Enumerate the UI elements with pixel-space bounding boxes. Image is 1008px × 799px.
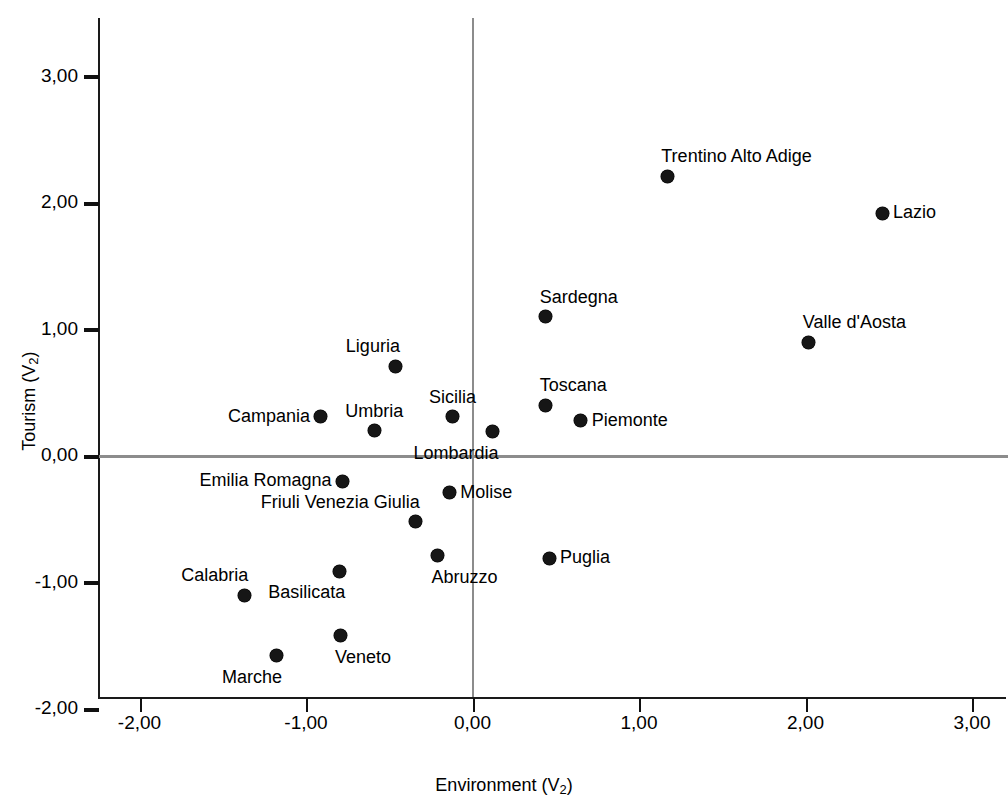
plot-area: 3,002,001,000,00-1,00-2,00 -2,00-1,000,0… [0,0,1008,799]
data-point-label: Abruzzo [432,567,498,588]
y-tick-label: -2,00 [0,697,78,719]
data-point[interactable] [238,589,251,602]
data-point-label: Umbria [345,401,403,422]
x-tick-label: -2,00 [95,712,185,734]
data-point-label: Basilicata [268,582,345,603]
data-point[interactable] [333,565,346,578]
x-tick-mark [806,698,808,712]
data-point[interactable] [368,424,381,437]
data-point[interactable] [334,629,347,642]
y-tick-mark [84,708,99,712]
vertical-zero-reference-line [472,18,474,697]
horizontal-zero-reference-line [98,455,1008,458]
data-point[interactable] [446,410,459,423]
data-point[interactable] [539,399,552,412]
data-point-label: Veneto [335,647,391,668]
x-axis-line [98,697,1006,699]
data-point[interactable] [539,310,552,323]
data-point[interactable] [270,649,283,662]
data-point-label: Trentino Alto Adige [661,146,811,167]
data-point-label: Emilia Romagna [200,470,332,491]
data-point-label: Liguria [346,336,400,357]
x-tick-mark [473,698,475,712]
data-point[interactable] [314,410,327,423]
y-axis-title: Tourism (V2) [19,311,41,491]
data-point-label: Calabria [181,565,248,586]
data-point-label: Lazio [893,202,936,223]
data-point-label: Molise [460,482,512,503]
y-tick-mark [84,581,99,585]
y-axis-line [98,18,100,698]
x-axis-title: Environment (V2) [0,775,1008,797]
data-point-label: Lombardia [413,443,498,464]
data-point-label: Puglia [560,547,610,568]
data-point-label: Friuli Venezia Giulia [261,492,420,513]
data-point[interactable] [802,336,815,349]
data-point[interactable] [431,549,444,562]
x-tick-label: -1,00 [261,712,351,734]
x-tick-mark [972,698,974,712]
data-point[interactable] [876,207,889,220]
y-tick-mark [84,455,99,459]
x-tick-label: 0,00 [428,712,518,734]
data-point[interactable] [443,486,456,499]
x-tick-label: 2,00 [761,712,851,734]
y-tick-label: -1,00 [0,571,78,593]
x-tick-mark [306,698,308,712]
x-tick-label: 1,00 [594,712,684,734]
data-point-label: Toscana [540,375,607,396]
x-tick-mark [140,698,142,712]
data-point[interactable] [389,360,402,373]
data-point-label: Campania [228,406,310,427]
y-tick-label: 3,00 [0,65,78,87]
data-point[interactable] [336,475,349,488]
x-tick-mark [639,698,641,712]
data-point[interactable] [409,515,422,528]
data-point-label: Sardegna [540,287,618,308]
data-point-label: Marche [222,667,282,688]
data-point[interactable] [574,414,587,427]
y-tick-mark [84,75,99,79]
data-point-label: Sicilia [429,387,476,408]
y-tick-label: 2,00 [0,191,78,213]
data-point[interactable] [543,552,556,565]
data-point-label: Valle d'Aosta [803,312,906,333]
data-point[interactable] [486,425,499,438]
data-point-label: Piemonte [592,410,668,431]
x-tick-label: 3,00 [927,712,1008,734]
y-tick-mark [84,328,99,332]
scatter-plot: 3,002,001,000,00-1,00-2,00 -2,00-1,000,0… [0,0,1008,799]
data-point[interactable] [661,170,674,183]
y-tick-mark [84,202,99,206]
